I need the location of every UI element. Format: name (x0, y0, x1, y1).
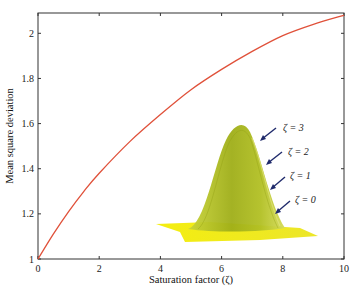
annotation-label: ζ = 2 (288, 146, 309, 158)
x-tick-label: 8 (280, 263, 285, 274)
x-tick-label: 6 (219, 263, 224, 274)
annotation-label: ζ = 1 (290, 170, 311, 182)
annotation-label: ζ = 3 (283, 122, 304, 134)
y-tick-label: 1.2 (22, 208, 35, 219)
y-tick-label: 1 (29, 254, 34, 265)
x-tick-label: 10 (339, 263, 349, 274)
x-tick-label: 0 (36, 263, 41, 274)
annotation-label: ζ = 0 (295, 194, 316, 206)
x-axis-label: Saturation factor (ζ) (149, 274, 234, 286)
y-tick-label: 1.6 (22, 118, 35, 129)
series-line (38, 15, 344, 259)
surface-peak (188, 125, 285, 232)
annotation-zeta-3: ζ = 3 (260, 122, 304, 141)
plot-frame (38, 13, 344, 259)
chart: 0246810 11.21.41.61.82 ζ = 3 ζ = 2 ζ = 1… (0, 0, 355, 297)
annotation-zeta-2: ζ = 2 (266, 146, 309, 165)
annotation-zeta-1: ζ = 1 (270, 170, 311, 190)
y-tick-label: 2 (29, 28, 34, 39)
annotation-zeta-0: ζ = 0 (275, 194, 316, 214)
y-axis-label: Mean square deviation (4, 87, 15, 183)
y-tick-label: 1.8 (22, 73, 35, 84)
x-tick-label: 4 (158, 263, 163, 274)
y-tick-label: 1.4 (22, 163, 35, 174)
inset-surface (156, 125, 318, 242)
x-tick-label: 2 (97, 263, 102, 274)
